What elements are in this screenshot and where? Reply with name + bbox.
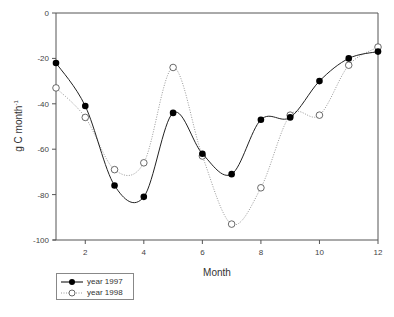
- svg-text:0: 0: [45, 9, 50, 18]
- legend-label: year 1997: [87, 276, 123, 287]
- data-point: [258, 116, 265, 123]
- data-point: [345, 62, 352, 69]
- data-point: [316, 78, 323, 85]
- data-point: [141, 194, 148, 201]
- svg-text:2: 2: [83, 248, 88, 257]
- x-axis: 24681012: [83, 240, 383, 257]
- svg-text:-100: -100: [33, 236, 50, 245]
- data-point: [228, 171, 235, 178]
- data-point: [287, 114, 294, 121]
- series-year-1997: [53, 48, 382, 202]
- svg-text:4: 4: [142, 248, 147, 257]
- legend: year 1997 year 1998: [56, 273, 134, 300]
- data-point: [111, 166, 118, 173]
- plot-frame: [53, 13, 378, 240]
- legend-item-1998: year 1998: [60, 287, 123, 298]
- svg-text:8: 8: [259, 248, 264, 257]
- data-point: [228, 221, 235, 228]
- svg-text:10: 10: [315, 248, 324, 257]
- data-point: [375, 48, 382, 55]
- legend-item-1997: year 1997: [60, 276, 123, 287]
- svg-text:-20: -20: [37, 54, 49, 63]
- data-point: [258, 184, 265, 191]
- y-axis-title-main: g C month: [13, 106, 24, 152]
- y-axis-title: g C month-1: [13, 100, 24, 152]
- y-axis-title-sup: -1: [13, 100, 19, 106]
- data-point: [111, 182, 118, 189]
- data-point: [316, 112, 323, 119]
- data-point: [82, 114, 89, 121]
- series-layer: [53, 44, 382, 228]
- y-axis: 0-20-40-60-80-100: [33, 9, 56, 245]
- series-year-1998: [53, 44, 382, 228]
- data-point: [53, 85, 60, 92]
- svg-text:-80: -80: [37, 191, 49, 200]
- data-point: [53, 60, 60, 67]
- open-circle-marker-icon: [60, 288, 84, 298]
- data-point: [199, 150, 206, 157]
- svg-text:12: 12: [374, 248, 383, 257]
- x-axis-title: Month: [203, 267, 231, 278]
- data-point: [82, 103, 89, 110]
- svg-text:-40: -40: [37, 100, 49, 109]
- data-point: [141, 160, 148, 167]
- data-point: [170, 110, 177, 117]
- svg-text:-60: -60: [37, 145, 49, 154]
- legend-label: year 1998: [87, 287, 123, 298]
- data-point: [345, 55, 352, 62]
- chart-area: 0-20-40-60-80-100 24681012 Month g C mon…: [0, 0, 394, 317]
- filled-circle-marker-icon: [60, 277, 84, 287]
- data-point: [170, 64, 177, 71]
- svg-text:6: 6: [200, 248, 205, 257]
